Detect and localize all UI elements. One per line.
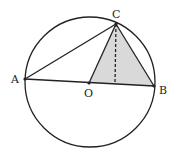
geometry-diagram: A B C O [0,0,174,155]
point-a [23,77,26,80]
label-o: O [84,87,93,100]
point-o [87,81,90,84]
label-c: C [112,8,120,21]
point-b [152,84,155,87]
point-c [114,22,117,25]
label-a: A [10,73,20,86]
label-b: B [159,84,167,97]
